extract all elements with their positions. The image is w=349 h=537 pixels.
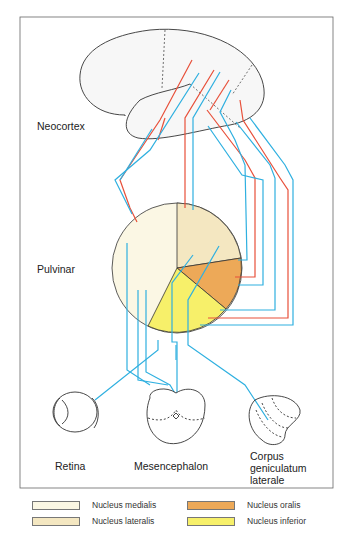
legend-swatch-inferior: [187, 517, 235, 526]
legend-swatch-medialis: [32, 501, 80, 510]
cgl-label-line3: laterale: [250, 474, 307, 486]
legend-label: Nucleus lateralis: [92, 516, 154, 526]
mesencephalon-drawing: [147, 389, 205, 444]
pulvinar-label: Pulvinar: [37, 263, 75, 275]
mesencephalon-label: Mesencephalon: [134, 460, 208, 472]
legend-swatch-lateralis: [32, 517, 80, 526]
retina-eye-drawing: [53, 392, 98, 432]
legend-label: Nucleus oralis: [247, 500, 300, 510]
legend-item-medialis: Nucleus medialis: [32, 500, 156, 510]
legend-label: Nucleus inferior: [247, 516, 306, 526]
legend-item-lateralis: Nucleus lateralis: [32, 516, 154, 526]
legend-label: Nucleus medialis: [92, 500, 156, 510]
legend-item-inferior: Nucleus inferior: [187, 516, 306, 526]
cgl-label-line2: geniculatum: [250, 462, 307, 474]
neocortex-label: Neocortex: [37, 120, 85, 132]
legend-item-oralis: Nucleus oralis: [187, 500, 300, 510]
retina-label: Retina: [55, 460, 85, 472]
cgl-label-line1: Corpus: [250, 450, 307, 462]
legend-swatch-oralis: [187, 501, 235, 510]
pulvinar-pie: [112, 203, 242, 333]
cgl-label: Corpus geniculatum laterale: [250, 450, 307, 486]
